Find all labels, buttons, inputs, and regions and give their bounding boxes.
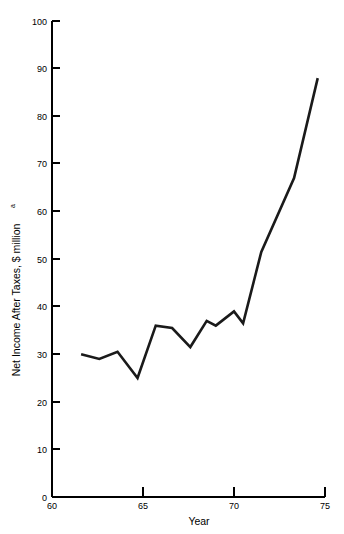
x-tick-label: 60 [47, 501, 57, 511]
y-axis-title-group: Net Income After Taxes, $ million a [9, 204, 22, 376]
line-chart: 100 90 80 70 60 50 40 30 20 10 0 60 65 7… [0, 0, 344, 534]
data-series-line [81, 78, 318, 378]
x-tick-label: 75 [320, 501, 330, 511]
x-axis-title: Year [188, 515, 210, 527]
y-axis-title-superscript: a [9, 204, 16, 208]
y-axis-ticks [52, 21, 60, 449]
y-tick-label: 20 [37, 398, 47, 408]
y-tick-label: 30 [37, 350, 47, 360]
y-tick-label: 80 [37, 112, 47, 122]
chart-container: 100 90 80 70 60 50 40 30 20 10 0 60 65 7… [0, 0, 344, 534]
x-tick-label: 70 [229, 501, 239, 511]
y-tick-label: 60 [37, 207, 47, 217]
y-tick-label: 100 [32, 17, 47, 27]
x-axis-tick-labels: 60 65 70 75 [47, 501, 330, 511]
y-tick-label: 70 [37, 159, 47, 169]
y-axis-title: Net Income After Taxes, $ million [10, 223, 22, 376]
x-tick-label: 65 [138, 501, 148, 511]
x-axis-ticks [143, 487, 325, 497]
y-axis-tick-labels: 100 90 80 70 60 50 40 30 20 10 0 [32, 17, 47, 503]
y-tick-label: 90 [37, 64, 47, 74]
y-tick-label: 40 [37, 302, 47, 312]
y-tick-label: 50 [37, 255, 47, 265]
y-tick-label: 10 [37, 445, 47, 455]
